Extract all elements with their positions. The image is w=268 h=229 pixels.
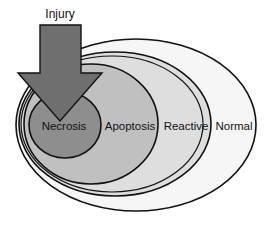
injury-label: Injury	[45, 7, 74, 21]
injury-response-diagram: Injury Necrosis Apoptosis Reactive Norma…	[0, 0, 268, 229]
necrosis-label: Necrosis	[42, 120, 87, 132]
normal-label: Normal	[215, 120, 252, 132]
apoptosis-label: Apoptosis	[105, 120, 156, 132]
reactive-label: Reactive	[164, 120, 209, 132]
